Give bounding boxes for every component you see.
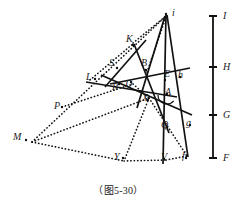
point-label-Y: Y: [114, 152, 120, 162]
point-label-X: X: [142, 93, 148, 103]
diagram-canvas: [0, 0, 237, 209]
point-label-R: R: [112, 82, 118, 92]
scale-label-H: H: [223, 62, 230, 72]
point-label-P: P: [54, 101, 60, 111]
dotted-M-to-X: [32, 98, 149, 142]
point-label-B: B: [141, 58, 147, 68]
point-label-D: D: [125, 79, 132, 89]
dotted-Y-to-V: [124, 160, 166, 161]
vertex-dot-Y: [122, 157, 124, 159]
point-label-L: L: [86, 72, 92, 82]
vertex-dot-S: [116, 67, 118, 69]
vertex-dot-L: [94, 78, 96, 80]
vertex-dot-E: [164, 79, 166, 81]
point-label-S: S: [109, 58, 114, 68]
point-label-f: f: [182, 151, 185, 161]
scale-label-G: G: [223, 110, 230, 120]
scale-label-I: I: [223, 11, 226, 21]
vertex-dot-P: [61, 106, 63, 108]
vertex-dot-K: [132, 44, 134, 46]
scale-bar-group: [209, 16, 217, 158]
scale-label-F: F: [223, 153, 229, 163]
figure-caption: （图5-30）: [0, 182, 237, 197]
point-label-A: A: [165, 87, 171, 97]
point-label-V: V: [161, 152, 167, 162]
dotted-M-to-Y: [32, 142, 124, 161]
point-label-K: K: [126, 34, 133, 44]
point-label-Q: Q: [161, 120, 168, 130]
geometry-figure: iKSBEhLDRAXPQgMYVf IHGF （图5-30）: [0, 0, 237, 209]
point-label-E: E: [164, 69, 170, 79]
vertex-dot-B: [145, 69, 147, 71]
vertex-dot-M: [25, 139, 27, 141]
vertex-dot-f: [185, 157, 187, 159]
point-label-i: i: [172, 8, 175, 18]
vertex-dot-i: [165, 13, 167, 15]
point-label-M: M: [13, 132, 21, 142]
vertex-dot-R: [118, 83, 120, 85]
point-label-g: g: [186, 118, 191, 128]
point-label-h: h: [178, 70, 183, 80]
